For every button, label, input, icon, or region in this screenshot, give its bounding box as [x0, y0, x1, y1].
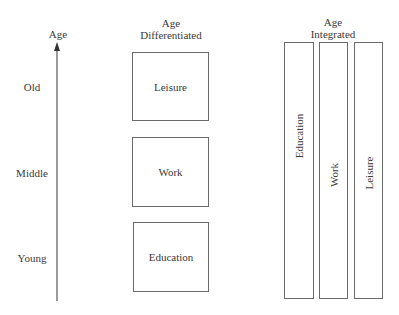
bar-work-label: Work [328, 163, 340, 187]
box-work-label: Work [158, 166, 182, 178]
axis-title: Age [44, 28, 72, 40]
integrated-title: Age Integrated [298, 16, 368, 40]
box-education: Education [133, 222, 209, 292]
differentiated-title-line1: Age [130, 17, 212, 29]
bar-leisure-label: Leisure [363, 157, 375, 190]
level-middle: Middle [10, 167, 54, 179]
box-work: Work [132, 137, 209, 207]
bar-education-label: Education [293, 114, 305, 159]
differentiated-title: Age Differentiated [130, 17, 212, 41]
box-education-label: Education [149, 251, 194, 263]
bar-education: Education [284, 42, 314, 299]
level-old: Old [14, 81, 50, 93]
integrated-title-line2: Integrated [298, 28, 368, 40]
bar-leisure: Leisure [354, 42, 383, 299]
integrated-title-line1: Age [298, 16, 368, 28]
bar-work: Work [319, 42, 348, 299]
differentiated-title-line2: Differentiated [130, 29, 212, 41]
box-leisure-label: Leisure [154, 81, 187, 93]
box-leisure: Leisure [132, 52, 209, 121]
level-young: Young [12, 252, 52, 264]
